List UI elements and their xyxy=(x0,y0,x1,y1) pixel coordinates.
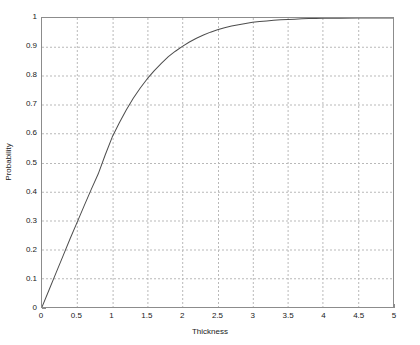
y-tick-label: 1 xyxy=(14,13,37,21)
x-axis-title: Thickness xyxy=(0,327,420,336)
y-tick-label: 0.1 xyxy=(14,275,37,283)
x-tick-label: 0 xyxy=(39,312,43,320)
y-tick-label: 0 xyxy=(14,304,37,312)
x-tick-label: 2.5 xyxy=(212,312,223,320)
y-tick-label: 0.4 xyxy=(14,188,37,196)
x-tick-label: 4 xyxy=(321,312,325,320)
x-tick-label: 5 xyxy=(392,312,396,320)
x-tick-mark xyxy=(394,304,395,308)
x-tick-label: 2 xyxy=(180,312,184,320)
y-tick-label: 0.5 xyxy=(14,159,37,167)
y-axis-title: Probability xyxy=(4,143,13,180)
x-tick-label: 1.5 xyxy=(141,312,152,320)
x-tick-label: 1 xyxy=(109,312,113,320)
y-tick-label: 0.3 xyxy=(14,217,37,225)
x-tick-label: 3.5 xyxy=(283,312,294,320)
x-tick-label: 0.5 xyxy=(71,312,82,320)
plot-area xyxy=(41,17,394,308)
probability-curve xyxy=(42,18,393,307)
y-tick-mark xyxy=(42,308,46,309)
data-curve-layer xyxy=(42,18,393,307)
x-tick-label: 4.5 xyxy=(353,312,364,320)
y-tick-label: 0.8 xyxy=(14,71,37,79)
y-tick-label: 0.6 xyxy=(14,129,37,137)
y-tick-label: 0.9 xyxy=(14,42,37,50)
x-tick-label: 3 xyxy=(251,312,255,320)
chart-figure: Probability Thickness 00.10.20.30.40.50.… xyxy=(0,0,420,345)
y-tick-label: 0.7 xyxy=(14,100,37,108)
y-tick-label: 0.2 xyxy=(14,246,37,254)
